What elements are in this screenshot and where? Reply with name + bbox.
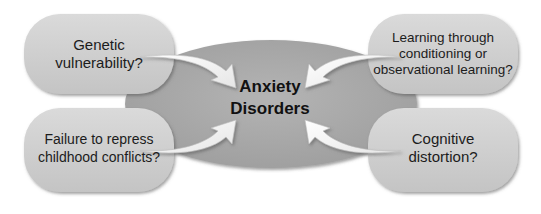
factor-cognitive-distortion: Cognitive distortion?: [368, 108, 518, 188]
anxiety-causes-diagram: Anxiety Disorders Genetic vulnerability?…: [0, 0, 541, 214]
factor-line: Genetic: [73, 36, 125, 54]
factor-line: Cognitive: [412, 130, 475, 148]
factor-line: distortion?: [408, 148, 477, 166]
factor-line: Failure to repress: [45, 130, 154, 148]
center-title: Anxiety Disorders: [200, 76, 340, 120]
center-title-line1: Anxiety: [200, 76, 340, 98]
factor-repression-failure: Failure to repress childhood conflicts?: [24, 108, 174, 188]
factor-genetic-vulnerability: Genetic vulnerability?: [24, 14, 174, 94]
factor-learning: Learning through conditioning or observa…: [368, 14, 518, 94]
factor-line: vulnerability?: [55, 54, 143, 72]
factor-line: Learning through: [392, 30, 494, 46]
factor-line: observational learning?: [373, 62, 513, 78]
center-title-line2: Disorders: [200, 98, 340, 120]
factor-line: conditioning or: [399, 46, 487, 62]
factor-line: childhood conflicts?: [38, 148, 160, 166]
